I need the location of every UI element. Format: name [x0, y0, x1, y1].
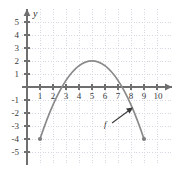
graph-figure: [data-name="grid-lines"] line{ stroke:#d…: [0, 0, 182, 172]
y-axis-arrowhead: [24, 9, 31, 16]
x-tick-label-9: 9: [142, 91, 147, 101]
parabola-graph-svg: [data-name="grid-lines"] line{ stroke:#d…: [0, 0, 182, 172]
x-tick-label-5: 5: [90, 91, 95, 101]
x-tick-label-10: 10: [154, 91, 164, 101]
x-tick-label-3: 3: [64, 91, 69, 101]
curve-endpoint-right-dot: [142, 137, 146, 141]
y-tick-label-1: 1: [15, 69, 20, 79]
x-tick-label-7: 7: [116, 91, 121, 101]
y-tick-label-3: 3: [15, 43, 20, 53]
y-tick-label-neg-4: -4: [12, 134, 20, 144]
x-tick-label-6: 6: [103, 91, 108, 101]
y-axis-label: y: [32, 8, 38, 19]
curve-label-f: f: [104, 119, 108, 129]
y-tick-label-4: 4: [15, 30, 20, 40]
y-tick-label-5: 5: [15, 17, 20, 27]
curve-endpoint-left-dot: [38, 137, 42, 141]
y-tick-label-neg-3: -3: [12, 121, 20, 131]
x-tick-label-4: 4: [77, 91, 82, 101]
x-axis-arrowhead: [165, 84, 172, 91]
y-tick-label-neg-5: -5: [12, 147, 20, 157]
y-tick-label-neg-1: -1: [12, 95, 20, 105]
axes: [22, 9, 172, 165]
y-tick-labels: 5 4 3 2 1 -1 -2 -3 -4 -5: [12, 17, 20, 157]
y-tick-label-neg-2: -2: [12, 108, 20, 118]
y-tick-label-2: 2: [15, 56, 20, 66]
x-tick-label-1: 1: [38, 91, 43, 101]
